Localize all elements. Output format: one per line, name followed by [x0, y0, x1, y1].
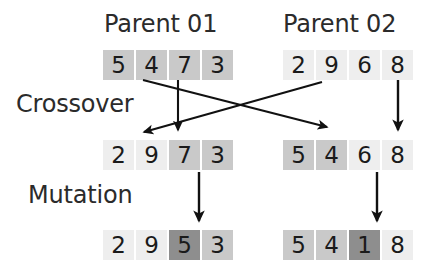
- gene-cell: 7: [169, 50, 200, 80]
- gene-cell: 7: [169, 140, 200, 170]
- parent-02-title: Parent 02: [283, 12, 396, 36]
- gene-cell: 9: [136, 230, 167, 260]
- gene-cell: 8: [382, 230, 413, 260]
- chromosome-mutated-01: 2 9 5 3: [103, 230, 233, 260]
- gene-cell: 4: [136, 50, 167, 80]
- gene-cell: 3: [202, 50, 233, 80]
- stage-label-mutation: Mutation: [28, 183, 132, 207]
- chromosome-mutated-02: 5 4 1 8: [283, 230, 413, 260]
- gene-cell: 8: [382, 50, 413, 80]
- gene-cell: 9: [316, 50, 347, 80]
- gene-cell: 5: [103, 50, 134, 80]
- gene-cell: 5: [283, 140, 314, 170]
- gene-cell: 8: [382, 140, 413, 170]
- gene-cell-mutated: 5: [169, 230, 200, 260]
- gene-cell-mutated: 1: [349, 230, 380, 260]
- gene-cell: 9: [136, 140, 167, 170]
- gene-cell: 6: [349, 50, 380, 80]
- crossover-arrow-p1-to-offspring02: [143, 80, 327, 127]
- stage-label-crossover: Crossover: [16, 92, 134, 116]
- crossover-arrow-p2-to-offspring01: [144, 82, 322, 132]
- gene-cell: 5: [283, 230, 314, 260]
- gene-cell: 4: [316, 140, 347, 170]
- chromosome-offspring-02: 5 4 6 8: [283, 140, 413, 170]
- gene-cell: 2: [103, 140, 134, 170]
- chromosome-parent-02: 2 9 6 8: [283, 50, 413, 80]
- gene-cell: 4: [316, 230, 347, 260]
- gene-cell: 3: [202, 230, 233, 260]
- gene-cell: 6: [349, 140, 380, 170]
- parent-01-title: Parent 01: [104, 12, 217, 36]
- chromosome-offspring-01: 2 9 7 3: [103, 140, 233, 170]
- gene-cell: 2: [283, 50, 314, 80]
- gene-cell: 3: [202, 140, 233, 170]
- genetic-algorithm-diagram: Parent 01 Parent 02 Crossover Mutation 5…: [0, 0, 448, 278]
- chromosome-parent-01: 5 4 7 3: [103, 50, 233, 80]
- gene-cell: 2: [103, 230, 134, 260]
